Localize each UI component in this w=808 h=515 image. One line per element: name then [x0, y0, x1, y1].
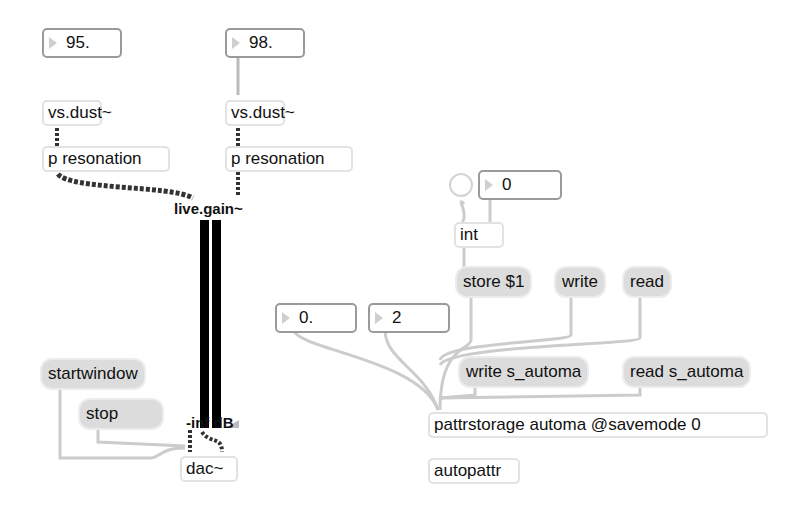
- int2-number-box[interactable]: 2: [368, 303, 450, 333]
- dac-object[interactable]: dac~: [180, 456, 238, 482]
- toggle-button[interactable]: [449, 173, 473, 197]
- int-number-box[interactable]: 0: [478, 170, 562, 200]
- read-s-automa-message[interactable]: read s_automa: [624, 358, 749, 386]
- number-triangle-icon: [232, 37, 240, 49]
- startwindow-message[interactable]: startwindow: [42, 360, 144, 388]
- read-message[interactable]: read: [624, 268, 670, 296]
- int-object[interactable]: int: [454, 222, 504, 248]
- pattrstorage-object[interactable]: pattrstorage automa @savemode 0: [428, 412, 768, 438]
- number-triangle-icon: [485, 179, 493, 191]
- gain-readout: -inf dB: [186, 414, 233, 431]
- float-number-box[interactable]: 0.: [275, 303, 357, 333]
- left-vs-dust-object[interactable]: vs.dust~: [42, 100, 102, 126]
- right-vs-dust-object[interactable]: vs.dust~: [225, 100, 285, 126]
- stop-message[interactable]: stop: [80, 400, 162, 428]
- left-dust-rate-number[interactable]: 95.: [42, 28, 122, 58]
- gain-meter-left: [200, 220, 209, 428]
- gain-meter-right: [212, 220, 221, 428]
- write-message[interactable]: write: [556, 268, 604, 296]
- number-triangle-icon: [375, 312, 383, 324]
- write-s-automa-message[interactable]: write s_automa: [460, 358, 587, 386]
- number-triangle-icon: [282, 312, 290, 324]
- live-gain-title: live.gain~: [174, 200, 243, 217]
- left-resonation-object[interactable]: p resonation: [42, 146, 170, 172]
- right-dust-rate-number[interactable]: 98.: [225, 28, 305, 58]
- autopattr-object[interactable]: autopattr: [428, 458, 520, 484]
- store-message[interactable]: store $1: [457, 268, 530, 296]
- right-resonation-object[interactable]: p resonation: [225, 146, 353, 172]
- number-triangle-icon: [49, 37, 57, 49]
